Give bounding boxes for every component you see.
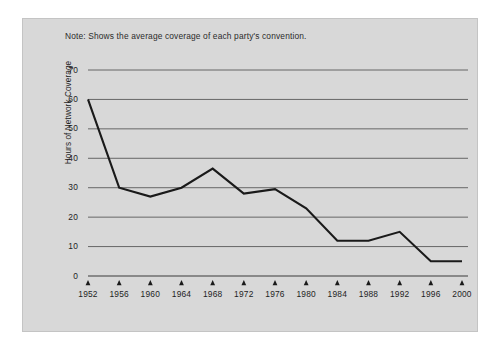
plot-area: 010203040506070 195219561960196419681972… <box>0 0 499 349</box>
x-tick-label: 1956 <box>102 289 136 299</box>
y-tick-label: 20 <box>52 212 78 222</box>
x-tick-label: 1984 <box>320 289 354 299</box>
y-tick-label: 0 <box>52 271 78 281</box>
chart-page: Note: Shows the average coverage of each… <box>0 0 499 349</box>
x-tick-label: 1964 <box>165 289 199 299</box>
x-tickmarks-group <box>86 280 465 285</box>
x-tickmark <box>428 280 433 285</box>
data-line-series <box>88 99 462 261</box>
x-tickmark <box>304 280 309 285</box>
x-tick-label: 2000 <box>445 289 479 299</box>
x-tickmark <box>273 280 278 285</box>
x-tick-label: 1992 <box>383 289 417 299</box>
x-tick-label: 1988 <box>352 289 386 299</box>
x-tickmark <box>117 280 122 285</box>
x-tickmark <box>179 280 184 285</box>
x-tickmark <box>397 280 402 285</box>
gridlines-group <box>88 70 468 276</box>
x-tickmark <box>86 280 91 285</box>
y-tick-label: 10 <box>52 241 78 251</box>
x-tick-label: 1972 <box>227 289 261 299</box>
x-tick-label: 1980 <box>289 289 323 299</box>
y-axis-title: Hours of Network Coverage <box>64 33 73 193</box>
x-tickmark <box>335 280 340 285</box>
x-tick-label: 1976 <box>258 289 292 299</box>
x-tick-label: 1968 <box>196 289 230 299</box>
x-tickmark <box>460 280 465 285</box>
x-tickmark <box>210 280 215 285</box>
x-tick-label: 1996 <box>414 289 448 299</box>
x-tickmark <box>366 280 371 285</box>
x-tickmark <box>241 280 246 285</box>
x-tickmark <box>148 280 153 285</box>
x-tick-label: 1960 <box>133 289 167 299</box>
x-tick-label: 1952 <box>71 289 105 299</box>
